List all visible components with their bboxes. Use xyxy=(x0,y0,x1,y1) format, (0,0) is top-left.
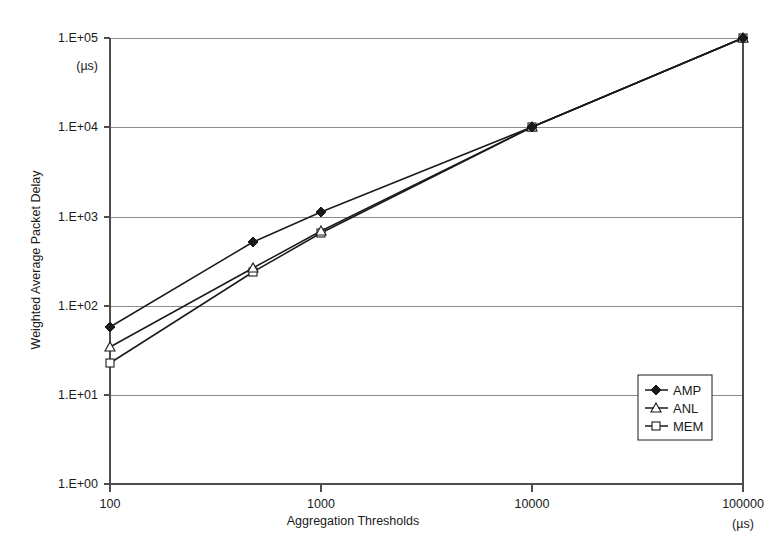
legend-marker-open-square-icon xyxy=(652,422,660,430)
series-mem-point-100 xyxy=(106,359,114,367)
x-tick-label-10000: 10000 xyxy=(515,497,550,511)
y-tick-label-1e03: 1.E+03 xyxy=(58,210,98,224)
y-tick-label-1e00: 1.E+00 xyxy=(58,477,98,491)
x-tick-label-100000: 100000 xyxy=(722,497,764,511)
legend-label-anl: ANL xyxy=(673,401,698,416)
log-log-line-chart: 1.E+05 1.E+04 1.E+03 1.E+02 1.E+01 1.E+0… xyxy=(0,0,780,555)
x-tick-label-1000: 1000 xyxy=(307,497,335,511)
x-axis-title: Aggregation Thresholds xyxy=(287,514,420,528)
chart-background xyxy=(0,0,780,555)
chart-container: 1.E+05 1.E+04 1.E+03 1.E+02 1.E+01 1.E+0… xyxy=(0,0,780,555)
y-tick-label-1e04: 1.E+04 xyxy=(58,120,98,134)
y-tick-label-1e01: 1.E+01 xyxy=(58,388,98,402)
y-tick-label-1e05: 1.E+05 xyxy=(58,31,98,45)
y-axis-title: Weighted Average Packet Delay xyxy=(29,170,43,350)
legend-label-mem: MEM xyxy=(673,419,703,434)
y-tick-label-1e02: 1.E+02 xyxy=(58,299,98,313)
y-axis-unit-label: (µs) xyxy=(76,59,98,73)
x-axis-unit-label: (µs) xyxy=(732,517,754,531)
chart-legend[interactable]: AMP ANL MEM xyxy=(638,375,712,440)
legend-label-amp: AMP xyxy=(673,383,701,398)
x-tick-label-100: 100 xyxy=(100,497,121,511)
